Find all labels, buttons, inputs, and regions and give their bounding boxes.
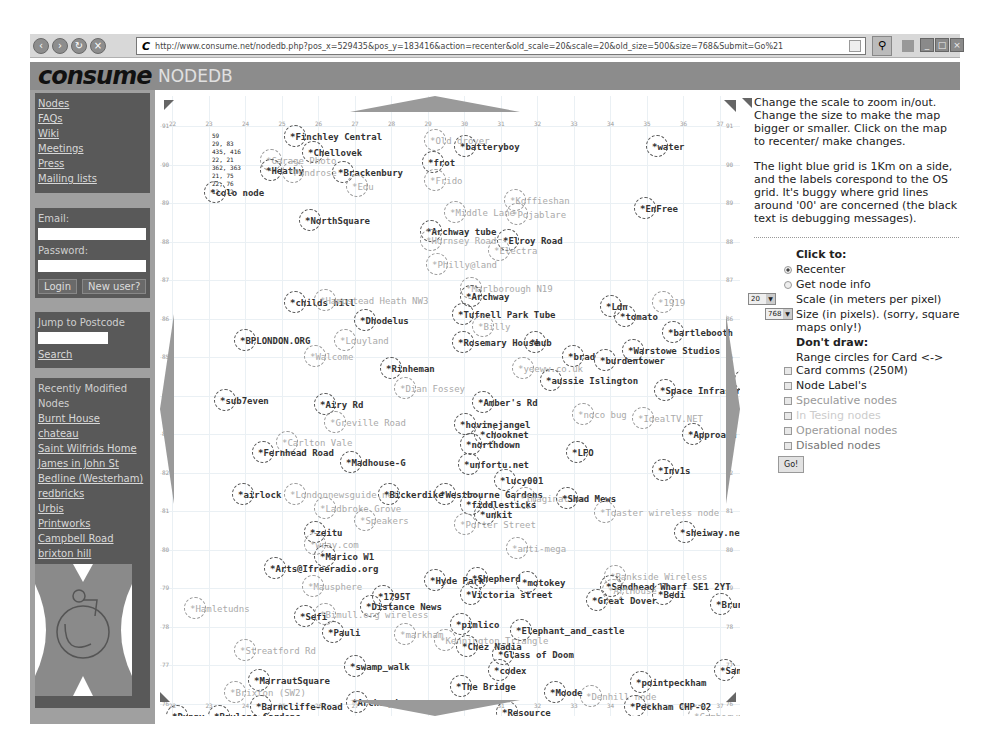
map-node[interactable]: *Billy: [478, 322, 511, 332]
map-node[interactable]: *Arts@Ifreeradio.org: [270, 564, 378, 574]
recent-node-link[interactable]: Campbell Road: [38, 531, 147, 546]
bookmark-icon[interactable]: [902, 40, 914, 52]
map-node[interactable]: *Shepherd: [472, 574, 521, 584]
map-node[interactable]: *Hamletudns: [190, 604, 250, 614]
map-node[interactable]: *Brackenbury: [338, 168, 403, 178]
email-field[interactable]: [38, 228, 146, 240]
password-field[interactable]: [38, 260, 146, 272]
map-node[interactable]: *Streatford Rd: [240, 646, 316, 656]
map-node[interactable]: *Pauli: [328, 628, 361, 638]
map-node[interactable]: *Fernhead Road: [258, 448, 334, 458]
map-node[interactable]: *Mausphere: [308, 582, 362, 592]
map-node[interactable]: *Dian Fossey: [400, 384, 465, 394]
map-node[interactable]: *Great Dover: [592, 596, 657, 606]
in-testing-checkbox[interactable]: [784, 412, 792, 420]
close-icon[interactable]: ×: [950, 38, 964, 52]
map-node[interactable]: *LFO: [572, 448, 594, 458]
map-node[interactable]: *Camberwell: [694, 712, 740, 716]
scale-select[interactable]: 20▼: [748, 293, 776, 305]
map-node[interactable]: *Inv1s: [658, 466, 691, 476]
recent-node-link[interactable]: Printworks: [38, 516, 147, 531]
node-labels-checkbox[interactable]: [784, 382, 792, 390]
site-logo[interactable]: consume: [38, 62, 151, 90]
map-node[interactable]: *brad: [568, 352, 595, 362]
map-node[interactable]: *Warstowe Studios: [628, 346, 720, 356]
new-user-button[interactable]: New user?: [82, 279, 146, 294]
operational-checkbox[interactable]: [784, 427, 792, 435]
url-bar[interactable]: C http://www.consume.net/nodedb.php?pos_…: [136, 37, 866, 55]
pan-southeast-arrow[interactable]: [726, 692, 736, 702]
recent-node-link[interactable]: Urbis: [38, 501, 147, 516]
back-button[interactable]: ‹: [33, 38, 49, 54]
stop-button[interactable]: ×: [90, 38, 106, 54]
login-button[interactable]: Login: [38, 279, 77, 294]
map-node[interactable]: *Airy Rd: [320, 400, 363, 410]
map-node[interactable]: *Elephant_and_castle: [516, 626, 624, 636]
map-node[interactable]: *Baylons Gardens: [214, 712, 301, 716]
map-node[interactable]: *noco bug: [578, 410, 627, 420]
pan-north-arrow[interactable]: [350, 96, 520, 112]
recent-node-link[interactable]: James in John St: [38, 456, 147, 471]
map-node[interactable]: *northdown: [466, 440, 520, 450]
map-node[interactable]: *motokey: [522, 578, 565, 588]
go-button[interactable]: Go!: [778, 456, 804, 473]
search-icon[interactable]: ⚲: [872, 36, 892, 56]
map-node[interactable]: *Elroy Road: [503, 236, 563, 246]
map-node[interactable]: *Rinheman: [386, 364, 435, 374]
map-node[interactable]: *batteryboy: [460, 142, 520, 152]
map-node[interactable]: *Dunny: [172, 712, 205, 716]
map-node[interactable]: *hub: [530, 338, 552, 348]
speculative-checkbox[interactable]: [784, 397, 792, 405]
recent-node-link[interactable]: Saint Wilfrids Home: [38, 441, 147, 456]
pan-west-arrow[interactable]: [160, 314, 174, 504]
map-node[interactable]: *colo node: [210, 188, 264, 198]
map-node[interactable]: *chooknet: [480, 430, 529, 440]
postcode-search-link[interactable]: Search: [38, 347, 147, 362]
map-node[interactable]: *Electra: [494, 246, 537, 256]
map-node[interactable]: *Greville Road: [330, 418, 406, 428]
forward-button[interactable]: ›: [52, 38, 68, 54]
map-node[interactable]: *airlock: [238, 490, 281, 500]
map-node[interactable]: *Hampstead Heath NW3: [320, 296, 428, 306]
map-node[interactable]: *Hornsey Road: [426, 236, 496, 246]
map-node[interactable]: *sheiway.net: [680, 528, 740, 538]
pan-south-arrow[interactable]: [350, 700, 520, 716]
map-node[interactable]: *1919: [658, 298, 685, 308]
recent-node-link[interactable]: chateau: [38, 426, 147, 441]
reload-button[interactable]: ↻: [71, 38, 87, 54]
map-node[interactable]: *Marico W1: [320, 552, 374, 562]
map-node[interactable]: *lucy001: [500, 476, 543, 486]
map-node[interactable]: *1795T: [378, 592, 411, 602]
map-node[interactable]: *codex: [494, 666, 527, 676]
map-node[interactable]: *Bankside Wireless: [610, 572, 708, 582]
map-node[interactable]: *sub7even: [220, 396, 269, 406]
url-text[interactable]: http://www.consume.net/nodedb.php?pos_x=…: [155, 42, 783, 51]
map-node[interactable]: *Louyland: [340, 336, 389, 346]
map-node[interactable]: *hovinejangel: [460, 420, 530, 430]
nav-meetings[interactable]: Meetings: [38, 141, 147, 156]
map-node[interactable]: *Walcome: [310, 352, 353, 362]
map-node[interactable]: *Speakers: [360, 516, 409, 526]
map-node[interactable]: *Tufnell Park Tube: [458, 310, 556, 320]
map-node[interactable]: *Philly@land: [432, 260, 497, 270]
map-node[interactable]: *Carlton Vale: [282, 438, 352, 448]
map-node[interactable]: *Amber's Rd: [478, 398, 538, 408]
map-node[interactable]: *Toaster wireless node: [600, 508, 719, 518]
map-node[interactable]: *Moode: [550, 688, 583, 698]
map-node[interactable]: *EnFree: [640, 204, 678, 214]
map-node[interactable]: *unfortu.net: [464, 460, 529, 470]
map-node[interactable]: *Frido: [430, 176, 463, 186]
map-node[interactable]: *NorthSquare: [305, 216, 370, 226]
map-node[interactable]: *Finchley Central: [290, 132, 382, 142]
map-node[interactable]: *Pojablare: [512, 210, 566, 220]
map-node[interactable]: *MarrautSquare: [254, 676, 330, 686]
map-node[interactable]: *water: [652, 142, 685, 152]
recenter-radio[interactable]: [784, 266, 792, 274]
pan-east-arrow[interactable]: [726, 314, 740, 504]
map-node[interactable]: *ArtHouse: [608, 586, 657, 596]
url-dropdown-icon[interactable]: [849, 40, 861, 52]
map-node[interactable]: *Dhodelus: [360, 316, 409, 326]
map-node[interactable]: *aussie Islington: [546, 376, 638, 386]
map-node[interactable]: *Sandford: [720, 666, 740, 676]
map-node[interactable]: *bartlebooth: [668, 328, 733, 338]
